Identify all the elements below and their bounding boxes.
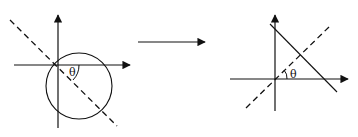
- right-theta-label: θ: [290, 68, 297, 81]
- left-circle: [46, 53, 112, 119]
- right-angle-arc: [284, 70, 287, 79]
- right-panel: θ: [230, 15, 348, 111]
- right-solid-line: [270, 24, 337, 92]
- left-panel: θ: [10, 15, 130, 128]
- right-dashed-line: [246, 25, 331, 108]
- diagram-canvas: θ θ: [0, 0, 358, 137]
- left-theta-label: θ: [69, 66, 76, 79]
